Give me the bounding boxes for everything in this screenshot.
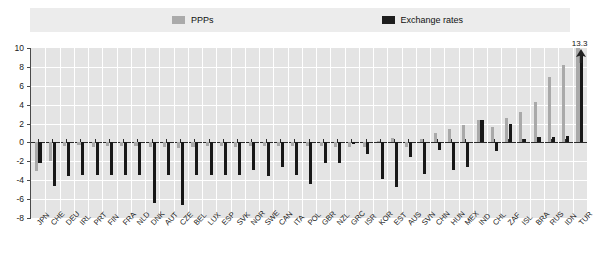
gridline-vertical [501,48,502,218]
gridline-vertical [416,48,417,218]
y-axis-tick-label: -4 [2,175,24,185]
y-axis-tick-label: -2 [2,156,24,166]
gridline-vertical [373,48,374,218]
gridline-vertical [188,48,189,218]
bar-exchange-rates-aus [409,142,412,156]
y-axis-tick-label: -8 [2,213,24,223]
bar-ppps-deu [63,142,66,146]
gridline-vertical [145,48,146,218]
bar-ppps-pol [306,142,309,146]
bar-ppps-irl [77,142,80,145]
bar-ppps-fin [106,142,109,146]
bar-exchange-rates-hun [452,142,455,169]
gridline-vertical [402,48,403,218]
bar-exchange-rates-pol [309,142,312,184]
bar-exchange-rates-nor [252,142,255,169]
bar-ppps-lux [206,142,209,146]
bar-exchange-rates-bra [537,137,540,143]
chart-plot-area [31,48,587,218]
bar-exchange-rates-che [53,142,56,185]
gridline-vertical [60,48,61,218]
gridline-vertical [216,48,217,218]
gridline-vertical [444,48,445,218]
bar-exchange-rates-chl [495,142,498,151]
bar-ppps-fra [120,142,123,146]
bar-ppps-isl [519,112,522,142]
bar-ppps-jpn [35,142,38,170]
gridline-vertical [88,48,89,218]
gridline-vertical [330,48,331,218]
gridline-vertical [430,48,431,218]
annotation-value-label: 13.3 [572,39,588,48]
y-axis-tick-label: 4 [2,100,24,110]
gridline-vertical [45,48,46,218]
chart-legend: PPPs Exchange rates [30,8,570,32]
gridline-vertical [102,48,103,218]
bar-exchange-rates-lux [210,142,213,174]
y-axis-tick [27,199,31,200]
bar-ppps-est [391,138,394,143]
bar-ppps-swe [263,142,266,146]
bar-exchange-rates-ind [480,120,483,143]
bar-ppps-che [49,142,52,161]
bar-ppps-dnk [149,142,152,147]
y-axis-tick-label: 10 [2,43,24,53]
gridline-vertical [573,48,574,218]
bar-exchange-rates-zaf [509,124,512,143]
bar-ppps-kor [377,141,380,143]
bar-ppps-mex [462,125,465,143]
bar-ppps-aut [163,142,166,147]
y-axis-tick [27,124,31,125]
gridline-vertical [558,48,559,218]
square-swatch-icon [172,16,185,24]
y-axis-tick [27,218,31,219]
gridline-horizontal [31,86,587,87]
bar-exchange-rates-can [281,142,284,167]
bar-ppps-zaf [505,118,508,143]
bar-exchange-rates-ita [295,142,298,174]
bar-exchange-rates-rus [552,137,555,143]
gridline-vertical [231,48,232,218]
gridline-vertical [459,48,460,218]
y-axis-tick-label: 2 [2,119,24,129]
bar-exchange-rates-isr [366,142,369,153]
bar-ppps-nor [249,142,252,146]
gridline-vertical [288,48,289,218]
bar-exchange-rates-irl [81,142,84,174]
bar-ppps-prt [92,142,95,147]
legend-item-label: Exchange rates [401,15,464,25]
y-axis-tick [27,86,31,87]
up-arrow-icon [575,49,587,63]
bar-ppps-idn [562,65,565,142]
bar-ppps-cze [177,142,180,148]
y-axis-tick-label: 6 [2,81,24,91]
y-axis-tick [27,48,31,49]
bar-ppps-nzl [334,142,337,147]
bar-exchange-rates-cze [181,142,184,204]
legend-item-exchange-rates: Exchange rates [382,15,464,25]
y-axis-tick [27,142,31,143]
y-axis-tick [27,180,31,181]
bar-ppps-hun [448,129,451,142]
gridline-vertical [273,48,274,218]
gridline-vertical [117,48,118,218]
bar-ppps-svn [420,139,423,143]
bar-exchange-rates-mex [466,142,469,167]
gridline-vertical [487,48,488,218]
bar-ppps-gbr [320,142,323,146]
gridline-vertical [387,48,388,218]
bar-exchange-rates-gbr [324,142,327,163]
gridline-vertical [473,48,474,218]
gridline-vertical [131,48,132,218]
y-axis-tick-label: 0 [2,137,24,147]
gridline-horizontal [31,124,587,125]
gridline-vertical [74,48,75,218]
y-axis-tick [27,67,31,68]
gridline-vertical [302,48,303,218]
bar-ppps-nld [134,142,137,146]
gridline-horizontal [31,199,587,200]
bar-ppps-isr [363,142,366,147]
y-axis-tick [27,161,31,162]
gridline-vertical [359,48,360,218]
bar-exchange-rates-fra [124,142,127,175]
